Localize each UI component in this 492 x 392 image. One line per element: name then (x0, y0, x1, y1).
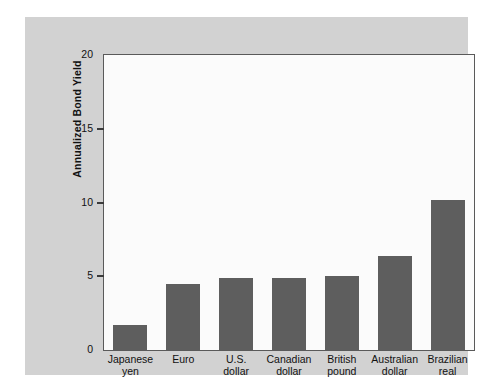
x-axis-category-label-line: dollar (223, 366, 249, 378)
y-axis-tick-label: 0 (87, 343, 93, 355)
x-axis-category-label-line: Japanese (108, 354, 154, 366)
y-axis-tick-mark (97, 275, 104, 277)
bar-group: U.S.dollar (210, 55, 263, 350)
x-axis-category-label-line: Euro (172, 354, 194, 366)
bar (325, 276, 359, 350)
bar-group: Canadiandollar (263, 55, 316, 350)
x-axis-category-label-line: dollar (267, 366, 312, 378)
bar (378, 256, 412, 350)
x-axis-category-label-line: real (427, 366, 467, 378)
y-axis-tick-mark (97, 202, 104, 204)
plot-area: 05101520 JapaneseyenEuroU.S.dollarCanadi… (103, 54, 475, 351)
bar-group: Euro (157, 55, 210, 350)
y-axis-tick-label: 5 (87, 269, 93, 281)
x-axis-category-label-line: dollar (371, 366, 418, 378)
x-axis-category-label-line: pound (327, 366, 356, 378)
x-axis-category-label-line: U.S. (223, 354, 249, 366)
bar (431, 200, 465, 350)
y-axis-tick-label: 10 (81, 196, 93, 208)
bar-group: Australiandollar (368, 55, 421, 350)
bar (113, 325, 147, 350)
bar (272, 278, 306, 350)
x-axis-category-label-line: Canadian (267, 354, 312, 366)
x-axis-category-label: Brazilianreal (427, 354, 467, 377)
x-axis-category-label: U.S.dollar (223, 354, 249, 377)
bar-chart-figure: Annualized Bond Yield 05101520 Japanesey… (0, 0, 492, 392)
y-axis-tick-label: 20 (81, 48, 93, 60)
bar-group: Brazilianreal (421, 55, 474, 350)
x-axis-category-label: Canadiandollar (267, 354, 312, 377)
x-axis-category-label: Australiandollar (371, 354, 418, 377)
bar-group: Britishpound (315, 55, 368, 350)
x-axis-category-label-line: Brazilian (427, 354, 467, 366)
figure-panel: Annualized Bond Yield 05101520 Japanesey… (25, 17, 468, 375)
bar (166, 284, 200, 350)
x-axis-category-label: Britishpound (327, 354, 356, 377)
bar-series: JapaneseyenEuroU.S.dollarCanadiandollarB… (104, 55, 474, 350)
x-axis-category-label-line: Australian (371, 354, 418, 366)
y-axis-tick-label: 15 (81, 122, 93, 134)
bar (219, 278, 253, 350)
x-axis-category-label: Euro (172, 354, 194, 366)
bar-group: Japaneseyen (104, 55, 157, 350)
x-axis-category-label-line: yen (108, 366, 154, 378)
y-axis-tick-mark (97, 128, 104, 130)
x-axis-category-label-line: British (327, 354, 356, 366)
x-axis-category-label: Japaneseyen (108, 354, 154, 377)
